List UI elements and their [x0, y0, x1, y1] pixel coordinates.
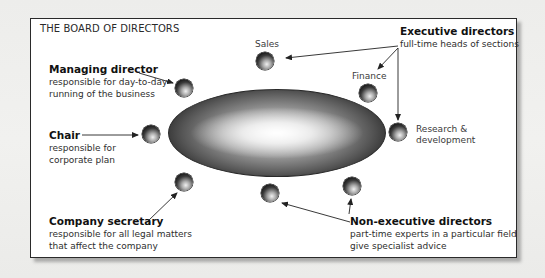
seat-non-executive-1-sphere: [261, 184, 279, 202]
non-executive-directors-annotation: Non-executive directors part-time expert…: [350, 214, 517, 252]
seat-chair-sphere: [142, 125, 160, 143]
company-secretary-description-line1: responsible for all legal matters: [49, 228, 192, 240]
managing-director-description-line2: running of the business: [49, 88, 167, 100]
managing-director-heading: Managing director: [49, 62, 167, 76]
company-secretary-annotation: Company secretary responsible for all le…: [49, 214, 192, 252]
executive-directors-description: full-time heads of sections: [400, 38, 519, 50]
diagram-title: THE BOARD OF DIRECTORS: [40, 23, 179, 34]
executive-directors-annotation: Executive directors full-time heads of s…: [400, 24, 519, 50]
seat-sales-sphere: [256, 52, 274, 70]
executive-directors-heading: Executive directors: [400, 24, 519, 38]
managing-director-annotation: Managing director responsible for day-to…: [49, 62, 167, 100]
seat-research-development-sphere: [389, 123, 407, 141]
chair-annotation: Chair responsible for corporate plan: [49, 128, 116, 166]
diagram-canvas: THE BOARD OF DIRECTORS Sales Finance Res…: [0, 0, 545, 278]
managing-director-description-line1: responsible for day-to-day: [49, 76, 167, 88]
non-executive-directors-heading: Non-executive directors: [350, 214, 517, 228]
seat-label-finance: Finance: [352, 70, 386, 82]
company-secretary-heading: Company secretary: [49, 214, 192, 228]
seat-label-research-development-line2: development: [416, 134, 475, 146]
seat-label-sales: Sales: [255, 38, 279, 50]
board-table-ellipse: [168, 89, 386, 177]
seat-non-executive-2-sphere: [343, 177, 361, 195]
non-executive-directors-description-line2: give specialist advice: [350, 240, 517, 252]
non-executive-directors-description-line1: part-time experts in a particular field: [350, 228, 517, 240]
chair-description-line1: responsible for: [49, 142, 116, 154]
seat-managing-director-sphere: [175, 79, 193, 97]
company-secretary-description-line2: that affect the company: [49, 240, 192, 252]
seat-company-secretary-sphere: [175, 173, 193, 191]
chair-heading: Chair: [49, 128, 116, 142]
seat-finance-sphere: [359, 84, 377, 102]
chair-description-line2: corporate plan: [49, 154, 116, 166]
